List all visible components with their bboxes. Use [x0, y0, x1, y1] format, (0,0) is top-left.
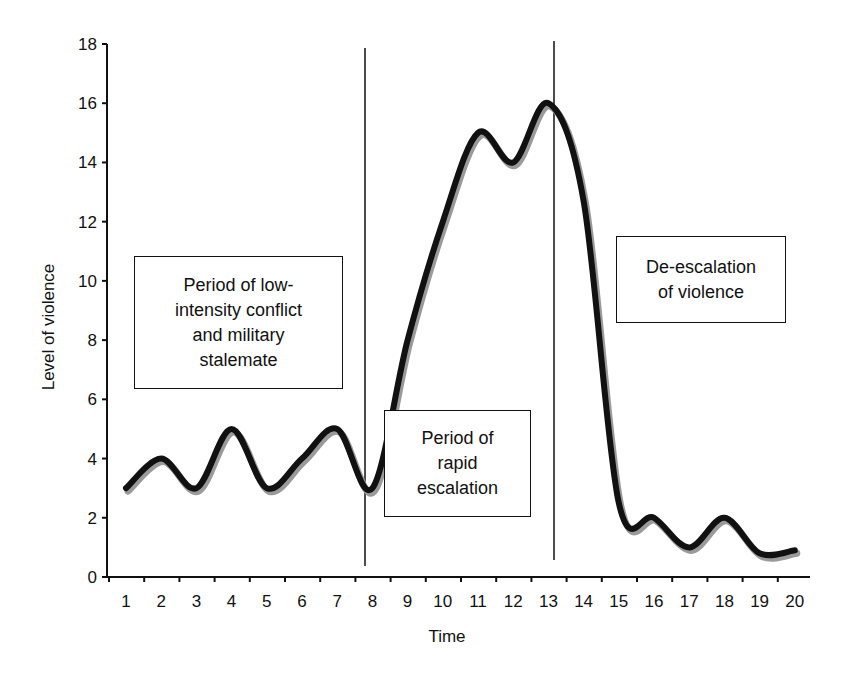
x-tick-label: 5	[262, 592, 271, 611]
annotation-line: of violence	[646, 280, 756, 305]
x-tick-label: 18	[715, 592, 734, 611]
x-tick-label: 7	[332, 592, 341, 611]
x-tick-label: 6	[297, 592, 306, 611]
annotation-low-intensity-conflict: Period of low- intensity conflict and mi…	[134, 256, 343, 389]
x-tick-label: 16	[645, 592, 664, 611]
annotation-line: and military	[175, 323, 302, 348]
y-tick-label: 18	[78, 35, 97, 54]
x-tick-label: 12	[504, 592, 523, 611]
x-tick-label: 3	[192, 592, 201, 611]
x-tick-label: 9	[403, 592, 412, 611]
x-tick-label: 4	[227, 592, 236, 611]
annotation-line: escalation	[417, 476, 498, 501]
y-tick-label: 6	[88, 390, 97, 409]
x-tick-label: 17	[680, 592, 699, 611]
annotation-line: intensity conflict	[175, 298, 302, 323]
annotation-line: Period of	[417, 426, 498, 451]
annotation-line: Period of low-	[175, 273, 302, 298]
x-axis-title: Time	[428, 627, 465, 646]
x-tick-label: 20	[785, 592, 804, 611]
x-tick-label: 2	[156, 592, 165, 611]
x-tick-label: 11	[469, 592, 487, 611]
annotation-line: De-escalation	[646, 255, 756, 280]
annotation-line: stalemate	[175, 348, 302, 373]
y-tick-label: 0	[88, 568, 97, 587]
y-tick-label: 10	[78, 272, 97, 291]
x-tick-label: 13	[539, 592, 558, 611]
annotation-rapid-escalation: Period of rapid escalation	[384, 410, 531, 517]
y-tick-label: 4	[88, 450, 97, 469]
y-axis-title: Level of violence	[39, 264, 58, 391]
x-tick-label: 15	[609, 592, 628, 611]
y-tick-label: 8	[88, 331, 97, 350]
x-tick-label: 10	[433, 592, 452, 611]
x-tick-label: 1	[121, 592, 130, 611]
y-tick-label: 2	[88, 509, 97, 528]
x-tick-label: 14	[574, 592, 593, 611]
y-tick-label: 14	[78, 153, 97, 172]
x-tick-label: 8	[368, 592, 377, 611]
annotation-de-escalation: De-escalation of violence	[616, 236, 786, 323]
line-chart: 0246810121416181234567891011121314151617…	[0, 0, 844, 678]
annotation-line: rapid	[417, 451, 498, 476]
x-tick-label: 19	[750, 592, 769, 611]
y-tick-label: 16	[78, 94, 97, 113]
y-tick-label: 12	[78, 213, 97, 232]
